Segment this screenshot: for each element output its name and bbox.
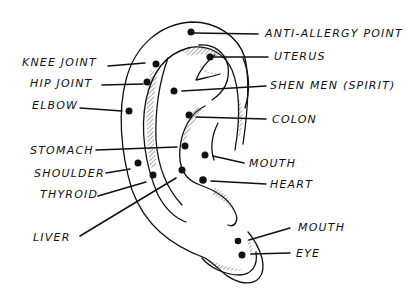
- dot-colon: [186, 112, 193, 119]
- label-liver: LIVER: [33, 232, 71, 244]
- label-uterus: UTERUS: [274, 51, 326, 63]
- label-stomach: STOMACH: [30, 145, 94, 157]
- leader-heart: [211, 181, 266, 184]
- dot-anti-allergy: [188, 29, 195, 36]
- dot-hip: [144, 79, 151, 86]
- label-shoulder: SHOULDER: [34, 168, 105, 180]
- leader-mouth-lobe: [249, 228, 290, 240]
- label-thyroid: THYROID: [40, 189, 98, 201]
- label-knee-joint: KNEE JOINT: [22, 57, 97, 69]
- label-hip-joint: HIP JOINT: [30, 78, 93, 90]
- leader-elbow: [80, 108, 122, 111]
- dot-elbow: [126, 108, 133, 115]
- leader-hip: [102, 84, 143, 85]
- ear-outline: [121, 22, 263, 283]
- dot-stomach: [182, 143, 189, 150]
- dot-knee: [153, 61, 160, 68]
- label-anti-allergy: ANTI-ALLERGY POINT: [265, 28, 403, 40]
- dot-shoulder: [135, 160, 142, 167]
- dot-mouth-lobe: [235, 238, 242, 245]
- label-colon: COLON: [272, 114, 317, 126]
- leader-colon: [196, 117, 266, 119]
- leader-stomach: [96, 147, 177, 150]
- leader-anti-allergy: [194, 33, 258, 34]
- dot-liver: [179, 167, 186, 174]
- ear-acupressure-diagram: ANTI-ALLERGY POINT UTERUS SHEN MEN (SPIR…: [0, 0, 411, 289]
- label-shen-men: SHEN MEN (SPIRIT): [270, 80, 396, 92]
- leader-mouth-upper: [213, 156, 244, 163]
- leader-eye: [251, 253, 290, 254]
- dot-uterus: [207, 54, 214, 61]
- label-elbow: ELBOW: [32, 100, 78, 112]
- label-mouth-lobe: MOUTH: [298, 222, 345, 234]
- label-eye: EYE: [296, 248, 320, 260]
- label-mouth-upper: MOUTH: [249, 158, 296, 170]
- label-heart: HEART: [270, 179, 313, 191]
- leader-knee: [108, 63, 145, 66]
- leader-thyroid: [98, 182, 146, 196]
- dot-thyroid: [150, 172, 157, 179]
- dot-mouth-upper: [202, 152, 209, 159]
- dot-eye: [239, 252, 246, 259]
- dot-heart: [199, 176, 207, 184]
- dot-shen-men: [171, 88, 178, 95]
